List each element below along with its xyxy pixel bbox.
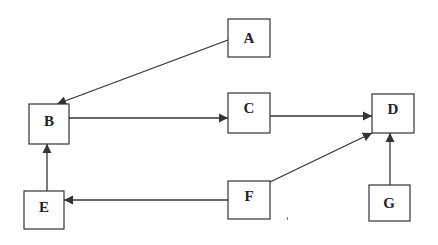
- node-a-label: A: [244, 30, 255, 46]
- node-a: A: [228, 19, 270, 57]
- node-c-label: C: [244, 100, 255, 116]
- node-f: F: [228, 181, 270, 219]
- node-b-label: B: [44, 113, 54, 129]
- scan-speck: [287, 217, 288, 220]
- node-g-label: G: [383, 195, 395, 211]
- edge-f-to-d: [270, 133, 372, 182]
- node-g: G: [369, 185, 410, 221]
- node-f-label: F: [244, 188, 253, 204]
- edge-a-to-b: [57, 40, 228, 104]
- diagram-canvas: A B C D E F G: [0, 0, 438, 245]
- node-c: C: [228, 93, 270, 133]
- node-d-label: D: [388, 101, 399, 117]
- node-d: D: [372, 94, 414, 133]
- node-e: E: [24, 191, 64, 229]
- node-e-label: E: [39, 199, 49, 215]
- node-b: B: [29, 104, 69, 144]
